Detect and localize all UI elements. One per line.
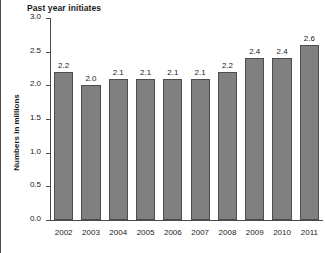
y-tick-label: 0.5 — [30, 180, 41, 189]
figure-left-rule — [0, 0, 1, 253]
bar — [272, 58, 291, 220]
bar — [136, 79, 155, 220]
x-tick-label: 2011 — [293, 228, 325, 237]
bar-value-label: 2.2 — [50, 61, 78, 70]
bar — [245, 58, 264, 220]
y-axis-line — [50, 18, 51, 220]
bar — [163, 79, 182, 220]
y-tick-label: 1.0 — [30, 147, 41, 156]
y-axis-label: Numbers in millions — [12, 73, 21, 193]
y-tick-mark — [46, 186, 50, 187]
bar — [81, 85, 100, 220]
bar-chart-figure: Past year initiates Numbers in millions … — [0, 0, 325, 253]
bar-value-label: 2.4 — [268, 47, 296, 56]
x-axis-line — [50, 220, 323, 221]
y-tick-mark — [46, 52, 50, 53]
y-tick-label: 0.0 — [30, 214, 41, 223]
bar-value-label: 2.1 — [132, 68, 160, 77]
bar — [218, 72, 237, 220]
bar-value-label: 2.1 — [186, 68, 214, 77]
bar — [300, 45, 319, 220]
y-tick-mark — [46, 119, 50, 120]
bar — [109, 79, 128, 220]
bar — [191, 79, 210, 220]
y-tick-mark — [46, 153, 50, 154]
y-tick-mark — [46, 220, 50, 221]
y-tick-mark — [46, 18, 50, 19]
bar-value-label: 2.0 — [77, 74, 105, 83]
bar-value-label: 2.1 — [104, 68, 132, 77]
bar-value-label: 2.2 — [213, 61, 241, 70]
bar-value-label: 2.1 — [159, 68, 187, 77]
y-tick-mark — [46, 85, 50, 86]
y-tick-label: 2.0 — [30, 79, 41, 88]
y-tick-label: 2.5 — [30, 46, 41, 55]
bar-value-label: 2.4 — [241, 47, 269, 56]
bar — [54, 72, 73, 220]
y-tick-label: 3.0 — [30, 12, 41, 21]
bar-value-label: 2.6 — [295, 34, 323, 43]
y-tick-label: 1.5 — [30, 113, 41, 122]
